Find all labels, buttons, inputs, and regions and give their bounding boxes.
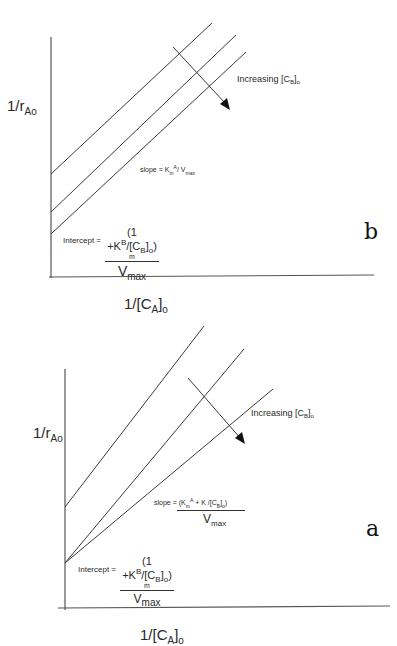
num-mid: /[C xyxy=(126,240,140,252)
intercept-numerator: (1 +KB/[CB]o) xyxy=(105,226,159,255)
panel-a-x-axis xyxy=(58,606,390,608)
panel-b-intercept-label: Intercept = xyxy=(63,236,101,245)
intercept-numerator: (1 +KB/[CB]o) xyxy=(120,555,174,584)
panel-b-y-axis-label: 1/rAo xyxy=(7,97,37,117)
num-mid: /[C xyxy=(141,569,155,581)
panel-b-x-axis-label: 1/[CA]o xyxy=(124,295,168,315)
panel-a-slope-denominator: Vmax xyxy=(203,512,226,528)
panel-a-y-axis-label: 1/rAo xyxy=(33,424,63,444)
arrow-label-main: Increasing [C xyxy=(237,74,290,84)
panel-a-arrow-shaft xyxy=(188,378,241,439)
x-label-tail-sub: o xyxy=(178,635,184,646)
slope-sub: m xyxy=(169,170,173,176)
panel-a-slope-bar xyxy=(177,510,245,511)
panel-a-line-3-visible xyxy=(65,389,273,563)
y-label-main: 1/r xyxy=(33,424,51,441)
arrow-label-main: Increasing [C xyxy=(251,408,304,418)
panel-b-slope-label: slope = KmA/ Vmax xyxy=(140,164,195,176)
arrow-label-tail-sub: o xyxy=(297,79,300,85)
panel-a-arrow-label: Increasing [CB]o xyxy=(251,408,314,419)
panel-b-line-2 xyxy=(51,35,236,212)
panel-b-label: b xyxy=(364,219,378,244)
fraction-bar xyxy=(120,590,174,591)
panel-a-slope-label: slope = (KmA + K /[CB]o) xyxy=(154,497,227,509)
panel-a-label: a xyxy=(366,516,379,541)
slope-den-sub: max xyxy=(211,519,226,528)
y-label-sub: Ao xyxy=(51,433,63,444)
num-close: ) xyxy=(153,240,157,252)
den-v: V xyxy=(118,263,127,279)
panel-b-intercept-fraction: (1 +KB/[CB]o) m Vmax xyxy=(105,226,159,282)
panel-a-intercept-fraction: (1 +KB/[CB]o) m Vmax xyxy=(120,555,174,608)
panel-b-x-axis xyxy=(49,275,374,277)
panel-b-arrow-label: Increasing [CB]o xyxy=(237,74,300,85)
panel-a-x-axis-label: 1/[CA]o xyxy=(140,626,184,646)
num-close: ) xyxy=(168,569,172,581)
slope-tail-sub: max xyxy=(185,170,194,176)
x-label-tail-sub: o xyxy=(162,304,168,315)
fraction-bar xyxy=(105,261,159,262)
panel-b-line-3 xyxy=(51,52,246,234)
panel-a-line-2 xyxy=(65,349,244,563)
den-sub: max xyxy=(142,597,161,608)
y-label-main: 1/r xyxy=(7,97,25,114)
slope-sub: m xyxy=(186,503,190,509)
den-sub: max xyxy=(127,271,146,282)
slope-mid: + K /[C xyxy=(193,499,217,506)
x-label-main: 1/[C xyxy=(140,626,168,643)
den-v: V xyxy=(134,592,142,606)
y-label-sub: Ao xyxy=(25,106,37,117)
panel-b-line-1 xyxy=(51,23,212,174)
diagram-canvas xyxy=(0,0,397,646)
arrow-label-tail-sub: o xyxy=(311,413,314,419)
x-label-main: 1/[C xyxy=(124,295,152,312)
slope-den-v: V xyxy=(203,512,211,526)
intercept-denominator: Vmax xyxy=(120,592,174,608)
slope-close: ) xyxy=(225,499,227,506)
slope-text: slope = K xyxy=(140,166,169,173)
panel-a-intercept-label: Intercept = xyxy=(78,565,116,574)
intercept-denominator: Vmax xyxy=(105,263,159,282)
slope-text: slope = (K xyxy=(154,499,186,506)
